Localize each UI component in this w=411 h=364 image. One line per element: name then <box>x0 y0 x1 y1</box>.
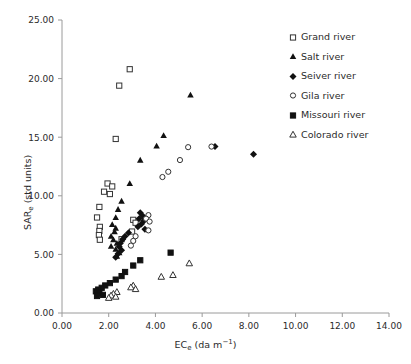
data-point <box>113 277 118 282</box>
data-point <box>153 143 160 149</box>
open-circle-icon <box>286 89 300 101</box>
data-point <box>177 157 182 162</box>
y-axis-title-sub: e <box>27 206 35 210</box>
series-salt-river <box>108 92 194 259</box>
x-axis-tick-label: 4.00 <box>145 321 165 331</box>
x-axis-title-tail-b: ) <box>233 339 237 350</box>
filled-triangle-icon <box>286 50 300 62</box>
legend-marker <box>290 113 295 118</box>
x-axis-tick-label: 12.00 <box>329 321 355 331</box>
data-point <box>186 145 191 150</box>
legend-item-seiver-river[interactable]: Seiver river <box>286 66 404 86</box>
scatter-chart: 0.005.0010.0015.0020.0025.000.002.004.00… <box>0 0 411 364</box>
filled-square-icon <box>286 109 300 121</box>
y-axis-title-tail: (std units) <box>22 155 33 207</box>
open-triangle-icon <box>286 128 300 140</box>
data-point <box>138 258 143 263</box>
x-axis-tick-label: 14.00 <box>376 321 402 331</box>
x-axis-title-superscript: −1 <box>222 339 232 350</box>
data-point <box>186 260 193 266</box>
y-axis-tick-label: 25.00 <box>28 15 54 25</box>
data-point <box>168 250 173 255</box>
data-point <box>97 204 102 209</box>
x-axis-title-main: EC <box>175 339 188 350</box>
data-point <box>112 214 119 220</box>
legend-item-missouri-river[interactable]: Missouri river <box>286 105 404 125</box>
x-axis-tick-label: 0.00 <box>52 321 72 331</box>
data-point <box>160 132 167 138</box>
data-point <box>170 272 177 278</box>
legend-item-label: Seiver river <box>301 70 356 81</box>
data-point <box>108 243 115 249</box>
open-square-icon <box>286 31 300 43</box>
data-point <box>107 191 112 196</box>
x-axis-title: ECe (da m−1) <box>0 339 411 350</box>
x-axis-tick-label: 10.00 <box>283 321 309 331</box>
filled-diamond-icon <box>286 70 300 82</box>
data-point <box>113 136 118 141</box>
data-point <box>118 198 125 204</box>
y-axis-title: SARe (std units) <box>8 100 24 230</box>
data-point <box>127 67 132 72</box>
legend-item-gila-river[interactable]: Gila river <box>286 86 404 106</box>
y-axis-tick-label: 15.00 <box>28 133 54 143</box>
y-axis-tick-label: 0.00 <box>34 308 54 318</box>
data-point <box>137 157 144 163</box>
y-axis-tick-label: 20.00 <box>28 74 54 84</box>
x-axis-title-sub: e <box>187 344 191 352</box>
data-point <box>160 174 165 179</box>
data-point <box>109 221 116 227</box>
legend-item-label: Missouri river <box>301 109 365 120</box>
data-point <box>147 219 152 224</box>
data-point <box>146 228 151 233</box>
legend-item-label: Grand river <box>301 31 355 42</box>
legend-item-salt-river[interactable]: Salt river <box>286 47 404 67</box>
data-point <box>115 206 122 212</box>
legend-marker <box>290 54 297 60</box>
x-axis-title-tail-a: (da m <box>192 339 223 350</box>
data-point <box>110 184 115 189</box>
chart-legend: Grand riverSalt riverSeiver riverGila ri… <box>286 27 404 144</box>
data-point <box>128 243 133 248</box>
legend-item-label: Salt river <box>301 51 344 62</box>
data-point <box>117 83 122 88</box>
data-point <box>187 92 194 98</box>
legend-item-colorado-river[interactable]: Colorado river <box>286 125 404 145</box>
data-point <box>166 169 171 174</box>
data-point <box>126 180 133 186</box>
legend-item-label: Gila river <box>301 90 344 101</box>
data-point <box>158 273 165 279</box>
x-axis-tick-label: 8.00 <box>239 321 259 331</box>
data-point <box>97 237 102 242</box>
data-point <box>209 144 214 149</box>
data-point <box>101 189 106 194</box>
legend-marker <box>290 35 295 40</box>
legend-marker <box>289 73 296 80</box>
data-point <box>131 263 136 268</box>
legend-item-grand-river[interactable]: Grand river <box>286 27 404 47</box>
data-point <box>94 215 99 220</box>
x-axis-tick-label: 6.00 <box>192 321 212 331</box>
y-axis-tick-label: 5.00 <box>34 250 54 260</box>
legend-item-label: Colorado river <box>301 129 368 140</box>
data-point <box>250 151 257 158</box>
legend-marker <box>290 132 297 138</box>
data-point <box>119 273 124 278</box>
y-axis-title-main: SAR <box>22 211 33 230</box>
data-point <box>100 292 105 297</box>
data-point <box>94 293 99 298</box>
x-axis-tick-label: 2.00 <box>99 321 119 331</box>
legend-marker <box>290 93 295 98</box>
